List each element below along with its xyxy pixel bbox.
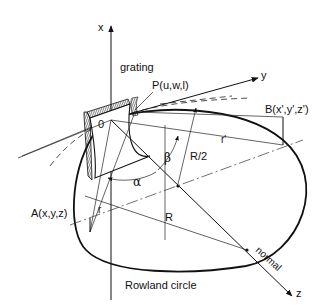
r-label: r: [98, 204, 102, 215]
p-leader: [135, 92, 153, 110]
point-b-label: B(x',y',z'): [265, 103, 309, 115]
grating-label: grating: [120, 61, 154, 73]
normal-intersection: [245, 248, 248, 251]
rowland-circle-diagram: x y grating P(u,w,l) 0 normal z R R/2 α: [0, 0, 332, 307]
rowland-circle-label: Rowland circle: [125, 279, 197, 291]
radius-half-label: R/2: [190, 150, 207, 162]
point-a-label: A(x,y,z): [31, 207, 67, 219]
alpha-arc: [108, 172, 156, 180]
radius-r-label: R: [165, 211, 173, 223]
dashed-upper-arc: [160, 96, 232, 104]
r-prime-label: r': [221, 134, 226, 145]
grating-face: [90, 104, 150, 178]
radius-half-line: [178, 108, 196, 184]
x-axis-label: x: [98, 21, 104, 33]
point-p-label: P(u,w,l): [152, 79, 189, 91]
z-axis-label: z: [296, 287, 302, 299]
y-axis-label: y: [261, 69, 267, 81]
radius-r-line: [85, 196, 247, 250]
grating: [84, 97, 150, 180]
beta-label: β: [164, 151, 171, 165]
alpha-label: α: [133, 175, 141, 189]
